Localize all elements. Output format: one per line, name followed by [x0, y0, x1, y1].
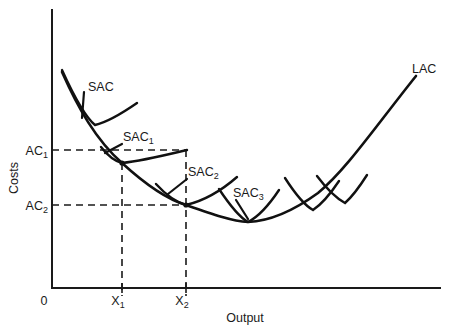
- ac2-label-main: AC: [26, 199, 43, 213]
- ac1-label: AC1: [26, 144, 48, 160]
- ac1-label-subscript: 1: [43, 150, 48, 160]
- y-axis-labels-group: AC1 AC2: [26, 144, 48, 215]
- sac-label: SAC: [88, 80, 114, 94]
- lac-label: LAC: [412, 62, 436, 76]
- ac1-label-main: AC: [26, 144, 43, 158]
- sac1-label: SAC1: [123, 130, 154, 146]
- cost-curves-figure: Costs Output 0 AC1 AC2 X1 X2 SAC: [0, 0, 449, 334]
- x1-label-subscript: 1: [120, 300, 125, 310]
- tangency-dot-x1: [119, 160, 124, 165]
- sac2-label: SAC2: [188, 165, 219, 181]
- sac2-pointer-line: [168, 179, 187, 194]
- sac2-label-main: SAC: [188, 165, 214, 179]
- ac2-label: AC2: [26, 199, 48, 215]
- axes-group: [52, 10, 440, 288]
- sac-curve-2: [156, 177, 237, 205]
- sac3-label: SAC3: [233, 186, 264, 202]
- sac1-label-subscript: 1: [149, 136, 154, 146]
- x-axis-labels-group: X1 X2: [111, 294, 188, 310]
- sac1-label-main: SAC: [123, 130, 149, 144]
- sac3-label-main: SAC: [233, 186, 259, 200]
- curve-labels-group: SAC SAC1 SAC2 SAC3 LAC: [88, 62, 436, 202]
- x2-label: X2: [175, 294, 188, 310]
- y-axis-title: Costs: [7, 162, 21, 194]
- sac3-label-subscript: 3: [259, 192, 264, 202]
- sac-label-main: SAC: [88, 80, 114, 94]
- sac2-label-subscript: 2: [214, 171, 219, 181]
- ac2-label-subscript: 2: [43, 205, 48, 215]
- x2-label-subscript: 2: [184, 300, 189, 310]
- chart-canvas: Costs Output 0 AC1 AC2 X1 X2 SAC: [0, 0, 449, 334]
- lac-label-main: LAC: [412, 62, 436, 76]
- tangency-dot-x2: [183, 202, 188, 207]
- origin-label: 0: [41, 294, 48, 308]
- x-axis-title: Output: [226, 311, 264, 325]
- reference-lines-group: [52, 150, 187, 296]
- x1-label: X1: [111, 294, 124, 310]
